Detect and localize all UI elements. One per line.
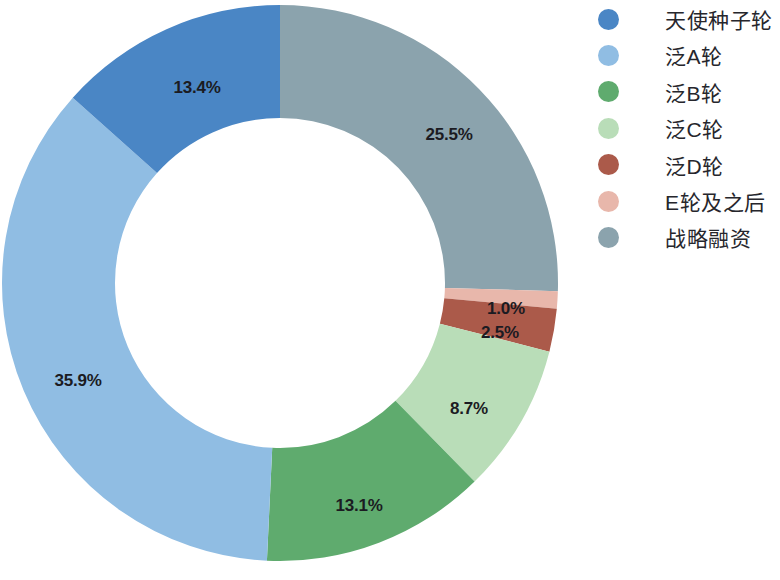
legend-item-label: 战略融资	[665, 222, 751, 252]
slice-percentage-label: 8.7%	[450, 399, 488, 419]
legend-color-swatch-icon	[598, 45, 619, 66]
legend-item-label: E轮及之后	[665, 186, 766, 216]
slice-percentage-label: 13.1%	[335, 496, 382, 516]
legend-color-swatch-icon	[598, 191, 619, 212]
legend-item-label: 泛B轮	[665, 77, 723, 107]
donut-slice[interactable]	[280, 5, 558, 291]
donut-chart: 25.5%1.0%2.5%8.7%13.1%35.9%13.4%	[0, 0, 580, 580]
slice-percentage-label: 1.0%	[487, 299, 525, 319]
legend-item[interactable]: 泛C轮	[598, 113, 724, 143]
chart-page: 25.5%1.0%2.5%8.7%13.1%35.9%13.4% 天使种子轮泛A…	[0, 0, 780, 580]
donut-slice[interactable]	[2, 98, 272, 561]
legend-item[interactable]: 天使种子轮	[598, 4, 773, 34]
legend-item-label: 泛D轮	[665, 150, 724, 180]
legend-item-label: 天使种子轮	[665, 4, 773, 34]
slice-percentage-label: 25.5%	[425, 125, 472, 145]
legend-color-swatch-icon	[598, 227, 619, 248]
donut-slices	[2, 5, 558, 561]
legend-color-swatch-icon	[598, 81, 619, 102]
slice-percentage-label: 2.5%	[481, 323, 519, 343]
legend-item[interactable]: 泛B轮	[598, 77, 723, 107]
slice-percentage-label: 35.9%	[54, 371, 101, 391]
legend-item[interactable]: 战略融资	[598, 222, 751, 252]
legend-color-swatch-icon	[598, 118, 619, 139]
legend-item-label: 泛C轮	[665, 113, 724, 143]
legend-item-label: 泛A轮	[665, 40, 723, 70]
donut-chart-svg	[0, 0, 580, 580]
legend-color-swatch-icon	[598, 9, 619, 30]
legend-item[interactable]: E轮及之后	[598, 186, 766, 216]
legend-item[interactable]: 泛A轮	[598, 40, 723, 70]
slice-percentage-label: 13.4%	[173, 78, 220, 98]
legend-item[interactable]: 泛D轮	[598, 150, 724, 180]
legend-color-swatch-icon	[598, 154, 619, 175]
chart-legend: 天使种子轮泛A轮泛B轮泛C轮泛D轮E轮及之后战略融资	[598, 0, 780, 260]
